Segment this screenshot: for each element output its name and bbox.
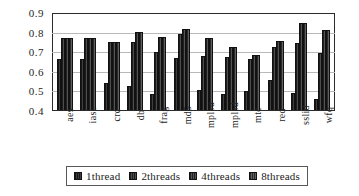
x-axis-labels: aesiasecrcdbfragmd5mplsumplsdmtcredsslid… bbox=[52, 113, 335, 159]
x-axis-tick-label: db bbox=[135, 110, 146, 121]
x-axis-tick: md5 bbox=[170, 113, 194, 159]
x-axis-tick-label: frag bbox=[158, 106, 169, 123]
x-axis-tick-label: aes bbox=[64, 108, 75, 122]
bar-group bbox=[170, 14, 193, 110]
x-axis-tick: frag bbox=[146, 113, 170, 159]
bar-group bbox=[100, 14, 123, 110]
x-axis-tick: red bbox=[264, 113, 288, 159]
y-axis-tick-label: 0.6 bbox=[29, 66, 44, 78]
bar[interactable] bbox=[233, 47, 237, 110]
bar[interactable] bbox=[303, 23, 307, 110]
bar-group bbox=[123, 14, 146, 110]
bar[interactable] bbox=[186, 29, 190, 110]
legend-item-label: 2threads bbox=[141, 170, 180, 182]
bar[interactable] bbox=[139, 32, 143, 110]
bar-group bbox=[311, 14, 334, 110]
bar[interactable] bbox=[326, 30, 330, 110]
legend-item-label: 8threads bbox=[261, 170, 300, 182]
x-axis-tick-label: mplsd bbox=[229, 102, 240, 128]
x-axis-tick-label: wfq bbox=[323, 107, 334, 123]
x-axis-tick-label: mplsu bbox=[205, 102, 216, 128]
x-axis-tick: db bbox=[123, 113, 147, 159]
legend-item-label: 4threads bbox=[201, 170, 240, 182]
x-axis-tick-label: sslid bbox=[300, 105, 311, 125]
bar[interactable] bbox=[162, 37, 166, 110]
bar[interactable] bbox=[209, 38, 213, 110]
bar-group bbox=[287, 14, 310, 110]
y-axis-tick-label: 0.7 bbox=[29, 46, 44, 58]
bar-group bbox=[147, 14, 170, 110]
x-axis-tick: mplsu bbox=[193, 113, 217, 159]
x-axis-tick-label: red bbox=[276, 108, 287, 122]
x-axis-tick: iase bbox=[76, 113, 100, 159]
legend-item[interactable]: 4threads bbox=[189, 170, 240, 182]
plot-area bbox=[52, 13, 335, 111]
bar[interactable] bbox=[256, 55, 260, 110]
y-axis-tick-label: 0.4 bbox=[29, 105, 44, 117]
legend-item[interactable]: 8threads bbox=[249, 170, 300, 182]
x-axis-tick-label: md5 bbox=[182, 106, 193, 125]
x-axis-tick: aes bbox=[52, 113, 76, 159]
legend-item[interactable]: 2threads bbox=[129, 170, 180, 182]
bar[interactable] bbox=[92, 38, 96, 110]
legend-item-label: 1thread bbox=[86, 170, 120, 182]
chart-container: 0.90.80.70.60.50.4 aesiasecrcdbfragmd5mp… bbox=[0, 0, 359, 196]
bar[interactable] bbox=[280, 41, 284, 110]
bar-group bbox=[264, 14, 287, 110]
x-axis-tick: wfq bbox=[311, 113, 335, 159]
bar-group bbox=[76, 14, 99, 110]
x-axis-tick-label: mtc bbox=[252, 107, 263, 123]
bar[interactable] bbox=[69, 38, 73, 110]
bar-series-container bbox=[53, 14, 334, 110]
bar-group bbox=[194, 14, 217, 110]
bar-group bbox=[240, 14, 263, 110]
legend-swatch-icon bbox=[189, 172, 197, 180]
bar-group bbox=[217, 14, 240, 110]
x-axis-tick-label: crc bbox=[111, 108, 122, 121]
x-axis-tick: sslid bbox=[288, 113, 312, 159]
legend-item[interactable]: 1thread bbox=[74, 170, 120, 182]
x-axis-tick-label: iase bbox=[87, 107, 98, 124]
bar[interactable] bbox=[116, 42, 120, 110]
legend-swatch-icon bbox=[129, 172, 137, 180]
legend-swatch-icon bbox=[74, 172, 82, 180]
bar-group bbox=[53, 14, 76, 110]
x-axis-tick: mplsd bbox=[217, 113, 241, 159]
x-axis-tick: crc bbox=[99, 113, 123, 159]
x-axis-tick: mtc bbox=[241, 113, 265, 159]
y-axis-tick-label: 0.8 bbox=[29, 27, 44, 39]
legend-swatch-icon bbox=[249, 172, 257, 180]
y-axis-labels: 0.90.80.70.60.50.4 bbox=[0, 13, 48, 111]
chart-legend: 1thread2threads4threads8threads bbox=[66, 166, 308, 186]
y-axis-tick-label: 0.9 bbox=[29, 7, 44, 19]
y-axis-tick-label: 0.5 bbox=[29, 85, 44, 97]
